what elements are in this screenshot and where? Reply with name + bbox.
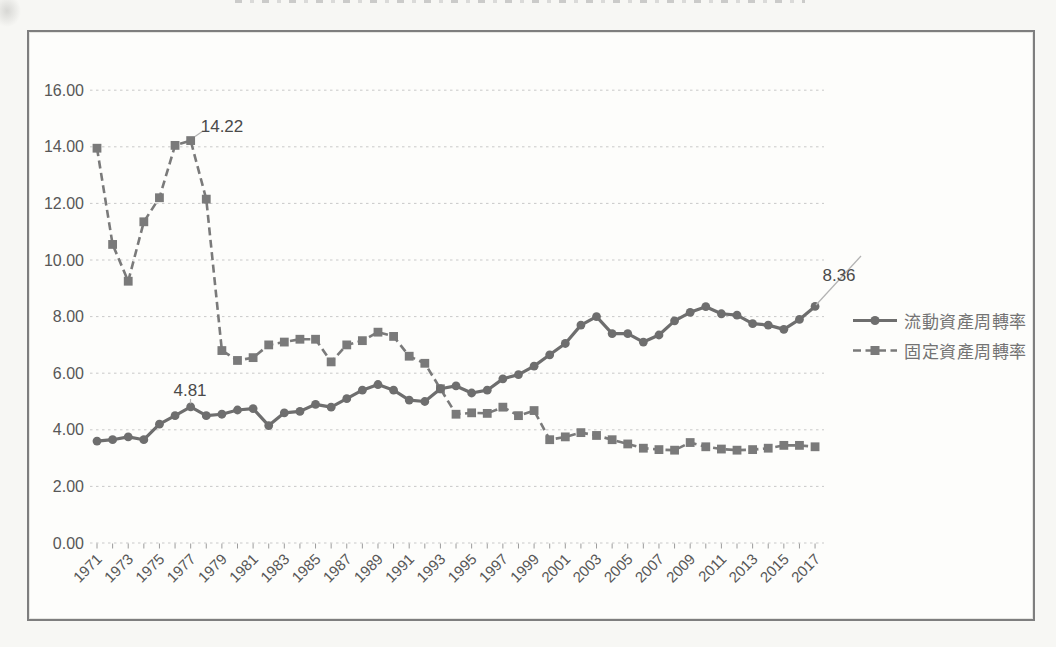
annotation-label: 4.81 bbox=[173, 381, 206, 400]
marker-circle bbox=[280, 408, 289, 417]
x-tick-label: 1981 bbox=[226, 550, 262, 586]
marker-circle bbox=[764, 321, 773, 330]
y-tick-label: 10.00 bbox=[44, 252, 84, 269]
legend-item-current-asset-turnover: 流動資產周轉率 bbox=[852, 308, 1027, 333]
x-tick-label: 2001 bbox=[538, 550, 574, 586]
legend-item-fixed-asset-turnover: 固定資產周轉率 bbox=[852, 338, 1027, 363]
x-tick-label: 2005 bbox=[600, 550, 636, 586]
marker-circle bbox=[514, 370, 523, 379]
marker-square bbox=[733, 446, 742, 455]
chart-legend: 流動資產周轉率 固定資產周轉率 bbox=[852, 308, 1027, 368]
marker-square bbox=[233, 356, 242, 365]
marker-square bbox=[623, 440, 632, 449]
marker-circle bbox=[217, 410, 226, 419]
marker-square bbox=[249, 353, 258, 362]
marker-square bbox=[483, 409, 492, 418]
marker-circle bbox=[342, 394, 351, 403]
x-tick-label: 1991 bbox=[382, 550, 418, 586]
x-tick-label: 1983 bbox=[257, 550, 293, 586]
x-tick-label: 2011 bbox=[695, 550, 730, 585]
marker-circle bbox=[93, 437, 102, 446]
marker-square bbox=[795, 441, 804, 450]
marker-circle bbox=[389, 386, 398, 395]
marker-square bbox=[655, 445, 664, 454]
x-tick-label: 1989 bbox=[350, 550, 386, 586]
marker-square bbox=[296, 335, 305, 344]
marker-square bbox=[779, 441, 788, 450]
marker-circle bbox=[264, 421, 273, 430]
marker-square bbox=[514, 411, 523, 420]
marker-square bbox=[358, 336, 367, 345]
marker-square bbox=[717, 445, 726, 454]
marker-square bbox=[545, 435, 554, 444]
marker-circle bbox=[545, 350, 554, 359]
marker-square bbox=[748, 445, 757, 454]
marker-square bbox=[577, 428, 586, 437]
marker-square bbox=[186, 136, 195, 145]
marker-circle bbox=[795, 315, 804, 324]
marker-circle bbox=[655, 331, 664, 340]
y-tick-label: 4.00 bbox=[53, 421, 84, 438]
x-tick-label: 2013 bbox=[725, 550, 761, 586]
marker-circle bbox=[530, 362, 539, 371]
legend-sample-solid-circle-icon bbox=[852, 314, 898, 327]
series-line-dashed bbox=[97, 141, 815, 451]
y-tick-label: 0.00 bbox=[53, 535, 84, 552]
marker-circle bbox=[483, 386, 492, 395]
marker-circle bbox=[498, 374, 507, 383]
y-tick-label: 2.00 bbox=[53, 478, 84, 495]
y-tick-label: 6.00 bbox=[53, 365, 84, 382]
marker-square bbox=[202, 195, 211, 204]
marker-circle bbox=[155, 420, 164, 429]
y-tick-label: 8.00 bbox=[53, 308, 84, 325]
marker-circle bbox=[436, 384, 445, 393]
marker-square bbox=[171, 141, 180, 150]
x-tick-label: 1985 bbox=[288, 550, 324, 586]
x-tick-label: 1977 bbox=[163, 550, 199, 586]
marker-square bbox=[389, 332, 398, 341]
x-tick-label: 2007 bbox=[631, 550, 667, 586]
marker-circle bbox=[139, 435, 148, 444]
marker-square bbox=[280, 338, 289, 347]
marker-square bbox=[701, 442, 710, 451]
annotation-label: 14.22 bbox=[201, 117, 244, 136]
marker-circle bbox=[311, 400, 320, 409]
marker-square bbox=[592, 431, 601, 440]
marker-square bbox=[764, 444, 773, 453]
marker-circle bbox=[701, 302, 710, 311]
marker-square bbox=[264, 341, 273, 350]
marker-square bbox=[155, 193, 164, 202]
marker-circle bbox=[108, 435, 117, 444]
marker-circle bbox=[686, 308, 695, 317]
x-tick-label: 2003 bbox=[569, 550, 605, 586]
y-tick-label: 14.00 bbox=[44, 138, 84, 155]
marker-circle bbox=[467, 389, 476, 398]
marker-circle bbox=[733, 311, 742, 320]
marker-square bbox=[108, 240, 117, 249]
marker-circle bbox=[420, 397, 429, 406]
marker-circle bbox=[577, 321, 586, 330]
marker-circle bbox=[358, 386, 367, 395]
marker-circle bbox=[670, 316, 679, 325]
marker-circle bbox=[249, 404, 258, 413]
marker-square bbox=[139, 217, 148, 226]
marker-square bbox=[467, 408, 476, 417]
x-tick-label: 1979 bbox=[194, 550, 230, 586]
x-tick-label: 1971 bbox=[70, 550, 106, 586]
x-tick-label: 2015 bbox=[756, 550, 792, 586]
marker-square bbox=[311, 335, 320, 344]
marker-circle bbox=[186, 402, 195, 411]
marker-square bbox=[670, 446, 679, 455]
y-tick-label: 16.00 bbox=[44, 82, 84, 99]
legend-sample-dashed-square-icon bbox=[852, 344, 898, 357]
x-tick-label: 1997 bbox=[475, 550, 511, 586]
marker-circle bbox=[171, 411, 180, 420]
x-tick-label: 1975 bbox=[132, 550, 168, 586]
marker-circle bbox=[327, 403, 336, 412]
marker-square bbox=[217, 346, 226, 355]
marker-circle bbox=[405, 396, 414, 405]
marker-circle bbox=[452, 382, 461, 391]
marker-circle bbox=[608, 329, 617, 338]
marker-square bbox=[639, 444, 648, 453]
series-line-solid bbox=[97, 306, 815, 441]
